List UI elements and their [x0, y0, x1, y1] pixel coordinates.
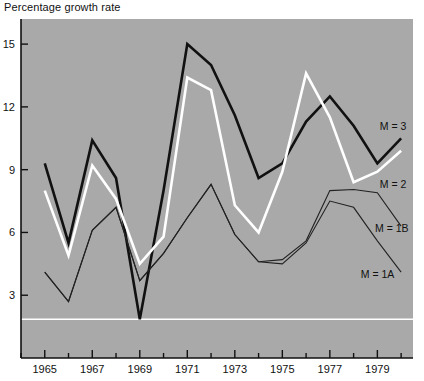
x-tick-label: 1967 [80, 363, 104, 375]
y-tick-label: 9 [9, 164, 15, 176]
x-tick-label: 1973 [223, 363, 247, 375]
chart-figure: Percentage growth rate 36912151965196719… [0, 0, 424, 381]
series-label: M = 2 [380, 178, 407, 190]
series-label: M = 1B [375, 222, 409, 234]
y-tick-label: 12 [3, 101, 15, 113]
y-tick-label: 3 [9, 289, 15, 301]
series-label: M = 1A [361, 268, 395, 280]
y-tick-label: 6 [9, 226, 15, 238]
x-tick-label: 1965 [33, 363, 57, 375]
series-label: M = 3 [380, 120, 407, 132]
x-tick-label: 1977 [318, 363, 342, 375]
x-tick-label: 1971 [175, 363, 199, 375]
x-tick-label: 1969 [128, 363, 152, 375]
x-tick-label: 1975 [270, 363, 294, 375]
line-chart: 369121519651967196919711973197519771979M… [0, 0, 424, 381]
y-tick-label: 15 [3, 38, 15, 50]
x-tick-label: 1979 [365, 363, 389, 375]
